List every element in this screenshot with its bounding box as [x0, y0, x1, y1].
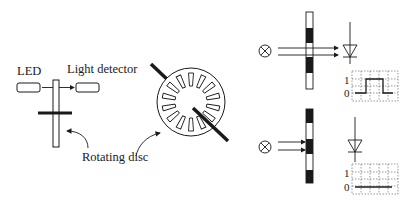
opaque-segment — [306, 28, 313, 43]
opaque-segment — [306, 109, 313, 123]
signal-grid — [352, 71, 398, 101]
y-axis-low: 0 — [344, 181, 350, 193]
opaque-segment — [306, 170, 313, 183]
y-axis-high: 1 — [344, 74, 350, 86]
opaque-segment — [306, 57, 313, 73]
signal-grid — [352, 164, 398, 194]
lamp-icon — [259, 45, 271, 57]
y-axis-high: 1 — [344, 167, 350, 179]
lamp-icon — [259, 141, 271, 153]
pointer-arrow-left — [67, 131, 88, 148]
led-label: LED — [17, 64, 41, 78]
photodiode-icon — [348, 117, 362, 162]
led-box — [17, 83, 40, 92]
detector-box — [76, 83, 99, 92]
disc-front-view — [151, 64, 228, 141]
opaque-segment — [306, 139, 313, 154]
rotating-disc-label: Rotating disc — [82, 150, 149, 164]
disc — [157, 68, 225, 136]
panel-light-blocked: 1 0 — [259, 109, 398, 194]
panel-light-passes: 1 0 — [259, 12, 398, 101]
encoder-strip — [306, 12, 313, 89]
side-view: LED Light detector Rotating disc — [17, 62, 160, 164]
light-detector-label: Light detector — [67, 62, 138, 76]
y-axis-low: 0 — [344, 87, 350, 99]
optical-encoder-diagram: LED Light detector Rotating disc — [0, 0, 413, 206]
photodiode-icon — [343, 22, 357, 64]
